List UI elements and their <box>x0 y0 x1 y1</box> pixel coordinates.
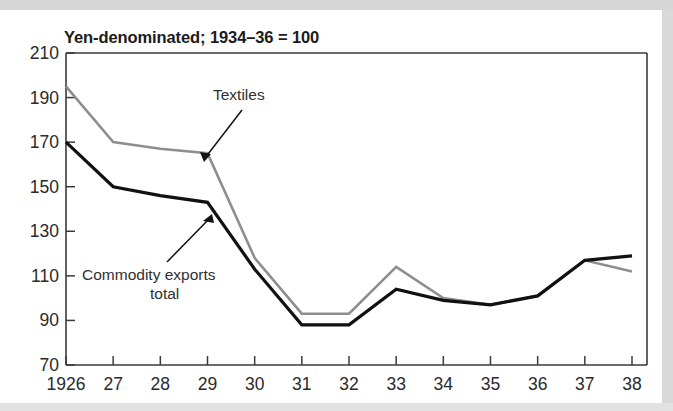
y-axis-ticks <box>66 53 75 365</box>
x-axis-tick-label: 28 <box>151 374 170 394</box>
x-axis-tick-label: 33 <box>386 374 405 394</box>
x-axis-tick-label: 32 <box>339 374 358 394</box>
annotation-textiles: Textiles <box>200 86 265 162</box>
x-axis-tick-label: 35 <box>481 374 500 394</box>
annotation-textiles-label: Textiles <box>213 86 265 103</box>
y-axis-tick-label: 150 <box>30 177 59 197</box>
x-axis-tick-label: 36 <box>528 374 547 394</box>
x-axis-tick-label: 31 <box>292 374 311 394</box>
x-axis-tick-label: 37 <box>575 374 594 394</box>
x-axis-ticks <box>66 356 632 365</box>
annotation-commodity-exports-total: Commodity exports total <box>82 214 216 302</box>
x-axis-tick-label: 38 <box>622 374 641 394</box>
annotation-commodity-arrow-line <box>167 218 210 262</box>
y-axis-tick-label: 130 <box>30 221 59 241</box>
x-axis-tick-label: 34 <box>434 374 454 394</box>
y-axis-tick-label: 190 <box>30 88 59 108</box>
x-axis-tick-label: 1926 <box>47 374 86 394</box>
page-scan-artifact-top <box>0 0 673 10</box>
y-axis-tick-label: 70 <box>40 355 60 375</box>
x-axis-tick-label: 29 <box>198 374 217 394</box>
y-axis-tick-label: 210 <box>30 43 59 63</box>
y-axis-tick-label: 170 <box>30 132 59 152</box>
annotation-commodity-label-line1: Commodity exports <box>82 266 216 283</box>
annotation-commodity-label-line2: total <box>150 285 179 302</box>
annotation-textiles-arrow-line <box>205 110 242 158</box>
x-axis-tick-label: 27 <box>103 374 122 394</box>
y-axis-tick-label: 110 <box>31 266 59 286</box>
annotation-commodity-arrow-head <box>203 214 214 223</box>
x-axis-tick-label: 30 <box>245 374 265 394</box>
page-scan-artifact-right <box>662 10 673 411</box>
y-axis-tick-labels: 7090110130150170190210 <box>30 43 59 375</box>
chart-surface: Yen-denominated; 1934–36 = 100 709011013… <box>0 10 662 403</box>
page-scan-artifact-bottom <box>0 403 673 411</box>
x-axis-tick-labels: 1926272829303132333435363738 <box>47 374 642 394</box>
y-axis-tick-label: 90 <box>40 310 60 330</box>
line-chart-plot: 7090110130150170190210 19262728293031323… <box>0 10 662 403</box>
figure-page: Yen-denominated; 1934–36 = 100 709011013… <box>0 0 673 411</box>
